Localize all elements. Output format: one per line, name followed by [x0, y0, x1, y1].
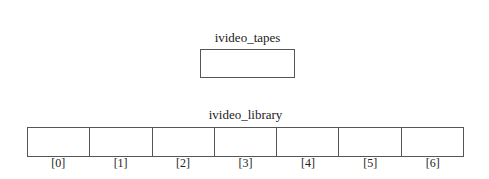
array-index-label: [2] [152, 156, 214, 171]
array-box [27, 127, 464, 157]
pointer-variable-box [200, 49, 295, 78]
array-cell [215, 128, 277, 156]
array-variable-label: ivideo_library [27, 107, 464, 123]
array-index-label: [3] [214, 156, 276, 171]
array-cell [153, 128, 215, 156]
array-cell [90, 128, 152, 156]
array-cell [277, 128, 339, 156]
array-index-labels: [0] [1] [2] [3] [4] [5] [6] [27, 156, 464, 171]
array-index-label: [5] [339, 156, 401, 171]
array-cell [339, 128, 401, 156]
array-cell [28, 128, 90, 156]
array-index-label: [6] [402, 156, 464, 171]
pointer-variable-label: ivideo_tapes [200, 30, 295, 46]
array-index-label: [0] [27, 156, 89, 171]
array-index-label: [4] [277, 156, 339, 171]
array-cell [402, 128, 464, 156]
array-index-label: [1] [89, 156, 151, 171]
